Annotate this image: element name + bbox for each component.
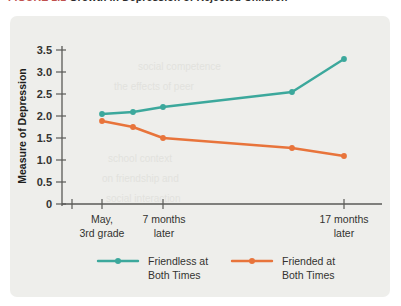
x-tick-label-line2: later [154,227,175,239]
legend-label-line2: Both Times [282,269,335,281]
x-tick-label-17-months-later: 17 months later [319,213,368,239]
svg-text:on friendship and: on friendship and [102,173,179,184]
y-tick-label-2-0: 2.0 [37,110,52,122]
chart-legend: Friendless at Both Times Friended at Bot… [98,255,335,281]
y-axis-title: Measure of Depression [16,68,28,184]
x-tick-label-line1: 7 months [142,213,185,225]
data-point-teal-5 [341,56,347,62]
svg-text:social interaction: social interaction [106,193,180,204]
legend-marker-orange [249,258,255,264]
chart-panel: social competence the effects of peer sc… [10,16,390,297]
x-tick-label-line1: May, [91,213,113,225]
data-point-orange-4 [289,145,295,151]
legend-item-friended[interactable]: Friended at Both Times [232,255,335,281]
data-point-teal-3 [160,104,166,110]
page-bleedthrough-artifact: social competence the effects of peer sc… [102,61,221,204]
y-tick-label-1-0: 1.0 [37,154,52,166]
series-line-orange [102,121,344,156]
figure-caption-strip: FIGURE 1.1 Growth in Depression of Rejec… [0,0,401,9]
svg-text:social competence: social competence [138,61,221,72]
figure-caption: FIGURE 1.1 Growth in Depression of Rejec… [8,0,287,3]
data-point-orange-5 [341,153,347,159]
y-tick-label-1-5: 1.5 [37,132,52,144]
y-tick-label-3-5: 3.5 [37,44,52,56]
x-tick-label-line2: 3rd grade [80,227,125,239]
legend-item-friendless[interactable]: Friendless at Both Times [98,255,208,281]
y-tick-label-2-5: 2.5 [37,88,52,100]
x-tick-label-may-3rd-grade: May, 3rd grade [80,213,125,239]
line-chart: social competence the effects of peer sc… [10,16,390,297]
data-point-teal-4 [289,89,295,95]
x-tick-label-7-months-later: 7 months later [142,213,185,239]
x-tick-label-line2: later [334,227,355,239]
x-axis: May, 3rd grade 7 months later 17 months … [62,199,382,239]
data-point-orange-1 [99,118,105,124]
legend-label-line1: Friendless at [148,255,208,267]
figure-title-text: Growth in Depression of Rejected Childre… [69,0,287,3]
y-tick-label-0: 0 [46,198,52,210]
x-tick-label-line1: 17 months [319,213,368,225]
legend-label-line2: Both Times [148,269,201,281]
figure-number: FIGURE 1.1 [8,0,66,3]
svg-text:school context: school context [108,153,172,164]
legend-marker-teal [115,258,121,264]
svg-text:the effects of peer: the effects of peer [114,81,195,92]
data-point-teal-1 [99,111,105,117]
data-point-orange-3 [160,135,166,141]
y-tick-label-0-5: 0.5 [37,176,52,188]
y-axis: 3.5 3.0 2.5 2.0 1.5 1.0 0.5 0 Measure of… [16,44,66,210]
legend-label-line1: Friended at [282,255,335,267]
data-point-teal-2 [130,109,136,115]
data-point-orange-2 [130,124,136,130]
y-tick-label-3-0: 3.0 [37,66,52,78]
